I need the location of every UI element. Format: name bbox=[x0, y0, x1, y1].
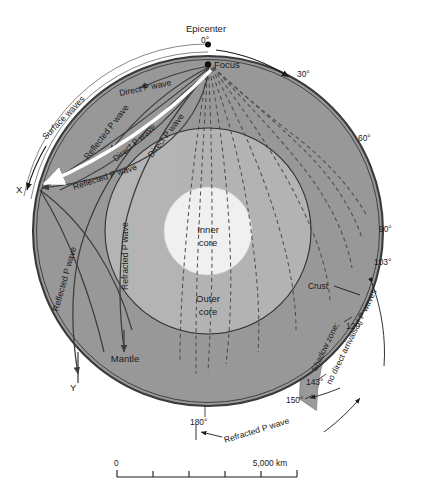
outer-core-label-line1: Outer bbox=[196, 293, 220, 304]
refracted-p-bottom-leader bbox=[201, 432, 222, 437]
scale-bar: 0 5,000 km bbox=[114, 458, 297, 477]
angle-label-0: 0° bbox=[201, 35, 209, 45]
angle-label-30: 30° bbox=[297, 69, 310, 79]
angle-label-143: 143° bbox=[306, 377, 323, 387]
refracted-p-wave-label-bottom: Refracted P wave bbox=[223, 415, 291, 444]
inner-core-label-line1: Inner bbox=[197, 224, 219, 235]
angle-label-90: 90° bbox=[379, 224, 392, 234]
crust-label: Crust bbox=[308, 281, 329, 291]
angle-label-180: 180° bbox=[190, 417, 207, 427]
refracted-p-bottom-leader-2 bbox=[324, 398, 360, 432]
angle-label-150: 150° bbox=[286, 395, 303, 405]
epicenter-label: Epicenter bbox=[186, 23, 226, 34]
inner-core-label-line2: core bbox=[199, 237, 217, 248]
focus-dot bbox=[205, 61, 211, 67]
scale-bar-end-label: 5,000 km bbox=[253, 458, 287, 468]
diagram-canvas: Inner core Outer core Mantle Crust Epice… bbox=[0, 0, 438, 495]
earth-cross-section-svg: Inner core Outer core Mantle Crust Epice… bbox=[0, 0, 438, 495]
angle-label-60: 60° bbox=[358, 133, 371, 143]
focus-label: Focus bbox=[214, 59, 240, 70]
angle-label-103: 103° bbox=[374, 257, 391, 267]
scale-bar-start-label: 0 bbox=[114, 458, 119, 468]
outer-core-label-line2: core bbox=[199, 306, 217, 317]
station-y-label: Y bbox=[70, 382, 77, 393]
station-x-label: X bbox=[16, 184, 23, 195]
refracted-p-wave-label-vertical: Refracted P wave bbox=[120, 222, 130, 290]
mantle-label: Mantle bbox=[111, 353, 140, 364]
